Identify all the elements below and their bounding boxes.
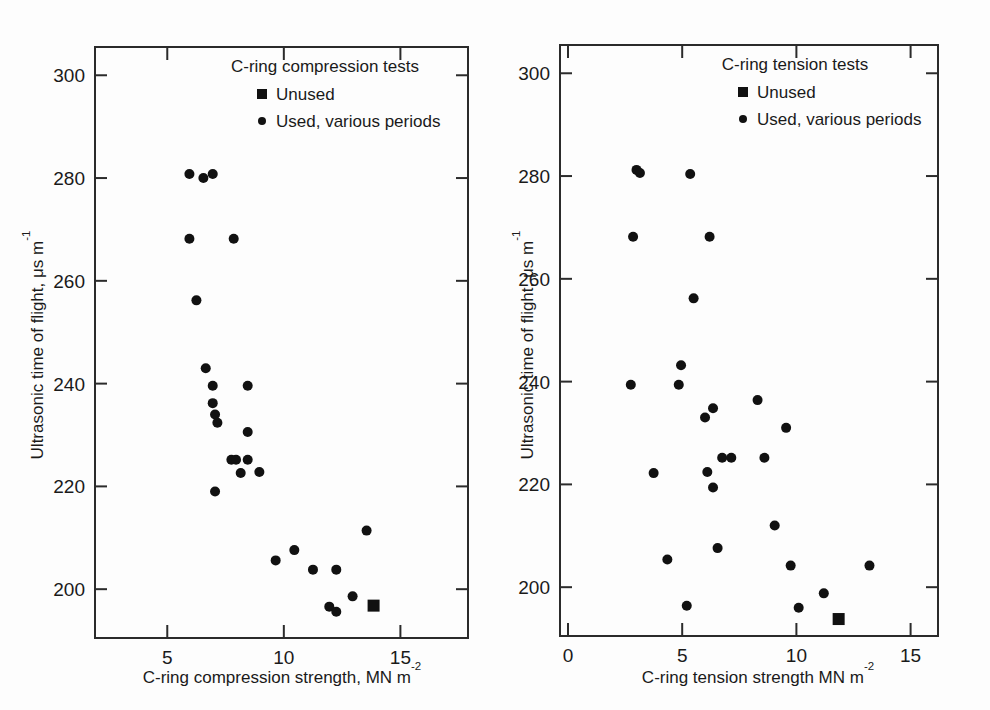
- data-series-unused: [368, 600, 380, 612]
- data-point-circle: [289, 545, 299, 555]
- svg-text:Ultrasonic time of flight, μs: Ultrasonic time of flight, μs m-1: [510, 231, 537, 460]
- plot-frame: [560, 45, 938, 636]
- x-tick-label: 5: [677, 645, 688, 666]
- data-series-unused: [833, 613, 845, 625]
- data-point-circle: [726, 453, 736, 463]
- legend-title: C-ring compression tests: [231, 57, 419, 76]
- data-series-used-various-periods: [184, 169, 371, 617]
- data-point-circle: [649, 468, 659, 478]
- x-axis-ticks: 51015: [162, 47, 411, 668]
- legend-item-label: Unused: [276, 85, 335, 104]
- chart-panel-compression: 20022024026028030051015C-ring compressio…: [0, 0, 495, 710]
- data-point-circle: [212, 418, 222, 428]
- data-point-circle: [331, 607, 341, 617]
- y-axis-title: Ultrasonic time of flight, μs m-1: [20, 231, 47, 460]
- data-point-circle: [254, 467, 264, 477]
- y-tick-label: 200: [518, 577, 550, 598]
- legend-marker-circle-icon: [739, 115, 747, 123]
- data-point-circle: [331, 565, 341, 575]
- y-tick-label: 260: [53, 271, 85, 292]
- y-tick-label: 280: [518, 166, 550, 187]
- data-point-circle: [662, 554, 672, 564]
- y-axis-ticks: 200220240260280300: [518, 63, 938, 598]
- svg-text:Ultrasonic time of flight, μs: Ultrasonic time of flight, μs m-1: [20, 231, 47, 460]
- data-point-circle: [201, 363, 211, 373]
- data-point-circle: [864, 561, 874, 571]
- data-point-circle: [243, 427, 253, 437]
- x-tick-label: 15: [900, 645, 921, 666]
- y-tick-label: 300: [53, 65, 85, 86]
- legend: C-ring tension testsUnusedUsed, various …: [722, 55, 922, 129]
- tension-scatter-plot: 200220240260280300051015C-ring tension s…: [495, 0, 990, 710]
- data-point-circle: [348, 591, 358, 601]
- x-axis-ticks: 051015: [563, 45, 921, 666]
- data-point-circle: [208, 381, 218, 391]
- data-point-circle: [786, 561, 796, 571]
- x-tick-label: 0: [563, 645, 574, 666]
- y-tick-label: 240: [53, 374, 85, 395]
- data-point-circle: [705, 232, 715, 242]
- data-point-circle: [635, 168, 645, 178]
- data-point-square: [368, 600, 380, 612]
- legend-marker-square-icon: [257, 89, 267, 99]
- data-series-used-various-periods: [626, 165, 875, 613]
- x-tick-label: 10: [786, 645, 807, 666]
- y-tick-label: 300: [518, 63, 550, 84]
- data-point-circle: [210, 487, 220, 497]
- data-point-circle: [713, 543, 723, 553]
- data-point-circle: [208, 169, 218, 179]
- data-point-circle: [753, 395, 763, 405]
- data-point-circle: [198, 173, 208, 183]
- legend-item-label: Used, various periods: [276, 112, 440, 131]
- x-tick-label: 10: [273, 647, 294, 668]
- data-point-circle: [229, 234, 239, 244]
- y-axis-ticks: 200220240260280300: [53, 65, 468, 600]
- data-point-circle: [717, 453, 727, 463]
- data-point-circle: [781, 423, 791, 433]
- data-point-circle: [685, 169, 695, 179]
- data-point-circle: [708, 403, 718, 413]
- legend-marker-circle-icon: [258, 117, 266, 125]
- figure-root: 20022024026028030051015C-ring compressio…: [0, 0, 990, 710]
- data-point-circle: [236, 468, 246, 478]
- legend-item-label: Unused: [757, 83, 816, 102]
- data-point-circle: [231, 455, 241, 465]
- legend-item-label: Used, various periods: [757, 110, 921, 129]
- data-point-circle: [794, 603, 804, 613]
- data-point-circle: [628, 232, 638, 242]
- data-point-circle: [626, 380, 636, 390]
- data-point-circle: [243, 455, 253, 465]
- data-point-circle: [208, 398, 218, 408]
- data-point-circle: [676, 360, 686, 370]
- data-point-circle: [700, 413, 710, 423]
- y-tick-label: 280: [53, 168, 85, 189]
- x-tick-label: 5: [162, 647, 173, 668]
- legend-marker-square-icon: [738, 87, 748, 97]
- data-point-circle: [708, 482, 718, 492]
- data-point-circle: [702, 467, 712, 477]
- x-tick-label: 15: [390, 647, 411, 668]
- y-axis-title: Ultrasonic time of flight, μs m-1: [510, 231, 537, 460]
- plot-frame: [95, 47, 468, 638]
- data-point-circle: [362, 526, 372, 536]
- chart-panel-tension: 200220240260280300051015C-ring tension s…: [495, 0, 990, 710]
- data-point-circle: [770, 521, 780, 531]
- data-point-circle: [184, 234, 194, 244]
- data-point-circle: [271, 555, 281, 565]
- y-tick-label: 220: [518, 474, 550, 495]
- data-point-circle: [689, 293, 699, 303]
- data-point-circle: [191, 295, 201, 305]
- compression-scatter-plot: 20022024026028030051015C-ring compressio…: [0, 0, 495, 710]
- data-point-circle: [674, 380, 684, 390]
- legend-title: C-ring tension tests: [722, 55, 868, 74]
- data-point-square: [833, 613, 845, 625]
- y-tick-label: 200: [53, 579, 85, 600]
- data-point-circle: [682, 601, 692, 611]
- data-point-circle: [184, 169, 194, 179]
- y-tick-label: 220: [53, 476, 85, 497]
- data-point-circle: [308, 565, 318, 575]
- legend: C-ring compression testsUnusedUsed, vari…: [231, 57, 440, 131]
- data-point-circle: [759, 453, 769, 463]
- data-point-circle: [819, 588, 829, 598]
- data-point-circle: [243, 381, 253, 391]
